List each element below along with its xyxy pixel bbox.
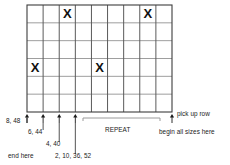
arrow-4-40 bbox=[57, 114, 61, 123]
label-size-4-40: 4, 40 bbox=[46, 141, 60, 147]
chart-graphic: XXXX bbox=[0, 0, 230, 165]
arrow-6-44 bbox=[41, 114, 45, 123]
svg-text:X: X bbox=[31, 60, 40, 75]
arrow-2-10-36-52 bbox=[73, 114, 77, 123]
label-begin-all-sizes-here: begin all sizes here bbox=[159, 129, 215, 135]
label-end-here: end here bbox=[8, 153, 34, 159]
label-size-8-48: 8, 48 bbox=[6, 118, 20, 124]
diagram-canvas: XXXX 8, 48 6, 44 4, 40 2, 10, 36, 52 end… bbox=[0, 0, 230, 165]
svg-text:X: X bbox=[95, 60, 104, 75]
label-repeat: REPEAT bbox=[105, 127, 130, 133]
svg-text:X: X bbox=[63, 6, 72, 21]
repeat-bracket bbox=[83, 118, 160, 121]
label-size-2-10-36-52: 2, 10, 36, 52 bbox=[55, 153, 91, 159]
label-pick-up-row: pick up row bbox=[177, 111, 210, 117]
label-leader-lines bbox=[27, 118, 75, 154]
label-size-6-44: 6, 44 bbox=[28, 129, 42, 135]
svg-text:X: X bbox=[143, 6, 152, 21]
arrow-begin-all-sizes bbox=[170, 114, 174, 123]
